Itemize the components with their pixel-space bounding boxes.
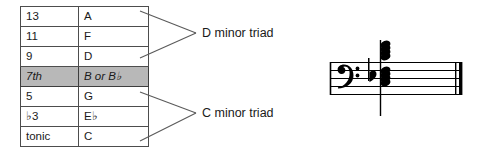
cell-note: D [79, 47, 149, 67]
cell-degree: 11 [21, 27, 79, 47]
cell-note: A [79, 7, 149, 27]
table-row: tonic C [21, 127, 149, 147]
cell-note: C [79, 127, 149, 147]
cell-note: E♭ [79, 107, 149, 127]
bass-clef-icon [338, 65, 360, 89]
cell-degree: 13 [21, 7, 79, 27]
cell-degree: ♭3 [21, 107, 79, 127]
table-row: ♭3 E♭ [21, 107, 149, 127]
chord-table-body: 13 A 11 F 9 D 7th B or B♭ 5 G ♭3 E♭ [21, 7, 149, 147]
table-row: 9 D [21, 47, 149, 67]
cell-degree: 7th [21, 67, 79, 87]
cell-note: G [79, 87, 149, 107]
table-row-highlighted: 7th B or B♭ [21, 67, 149, 87]
table-row: 13 A [21, 7, 149, 27]
lower-triad-label: C minor triad [202, 107, 274, 120]
cell-degree: 5 [21, 87, 79, 107]
cell-note: B or B♭ [79, 67, 149, 87]
cell-note: F [79, 27, 149, 47]
chord-degree-table: 13 A 11 F 9 D 7th B or B♭ 5 G ♭3 E♭ [20, 6, 149, 147]
chord-noteheads [379, 39, 391, 87]
table-row: 11 F [21, 27, 149, 47]
upper-triad-label: D minor triad [202, 27, 274, 40]
cell-degree: 9 [21, 47, 79, 67]
cell-degree: tonic [21, 127, 79, 147]
music-staff-figure [312, 18, 480, 140]
figure-root: 13 A 11 F 9 D 7th B or B♭ 5 G ♭3 E♭ [0, 0, 488, 166]
table-row: 5 G [21, 87, 149, 107]
